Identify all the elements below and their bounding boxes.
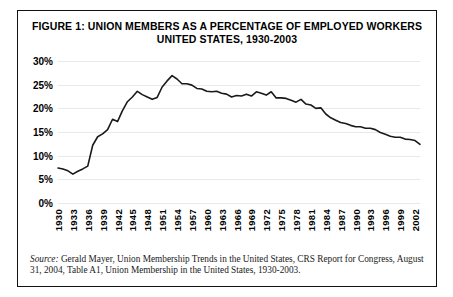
y-tick-label-20%: 20% xyxy=(19,103,53,114)
source-note: Source: Gerald Mayer, Union Membership T… xyxy=(30,254,424,277)
x-tick-label-1945: 1945 xyxy=(127,209,138,231)
x-tick-label-1960: 1960 xyxy=(202,209,213,231)
x-tick-label-1942: 1942 xyxy=(113,209,124,231)
x-tick-label-1963: 1963 xyxy=(217,209,228,231)
y-tick-label-5%: 5% xyxy=(19,174,53,185)
gridline-0% xyxy=(58,203,420,204)
x-tick-label-1996: 1996 xyxy=(380,209,391,231)
x-tick-label-1933: 1933 xyxy=(68,209,79,231)
x-tick-label-1957: 1957 xyxy=(187,209,198,231)
x-tick-label-1999: 1999 xyxy=(395,209,406,231)
x-tick-label-1972: 1972 xyxy=(261,209,272,231)
chart-area: 0%5%10%15%20%25%30% 19301933193619391942… xyxy=(18,55,438,240)
x-tick-label-1930: 1930 xyxy=(53,209,64,231)
x-tick-label-1951: 1951 xyxy=(157,209,168,231)
x-tick-label-1966: 1966 xyxy=(232,209,243,231)
y-tick-label-30%: 30% xyxy=(19,56,53,67)
figure-title-line-2: UNITED STATES, 1930-2003 xyxy=(18,33,436,46)
source-label: Source: xyxy=(30,254,59,264)
x-tick-label-1936: 1936 xyxy=(83,209,94,231)
x-tick-label-1981: 1981 xyxy=(306,209,317,231)
x-tick-label-1990: 1990 xyxy=(351,209,362,231)
x-tick-label-1993: 1993 xyxy=(365,209,376,231)
x-tick-label-1939: 1939 xyxy=(98,209,109,231)
plot-area: 0%5%10%15%20%25%30% xyxy=(58,61,420,203)
x-tick-label-1975: 1975 xyxy=(276,209,287,231)
x-tick-label-1954: 1954 xyxy=(172,209,183,231)
x-tick-label-1984: 1984 xyxy=(321,209,332,231)
y-tick-label-10%: 10% xyxy=(19,150,53,161)
figure-title-line-1: FIGURE 1: UNION MEMBERS AS A PERCENTAGE … xyxy=(18,20,436,33)
y-tick-label-0%: 0% xyxy=(19,198,53,209)
x-tick-label-1948: 1948 xyxy=(142,209,153,231)
x-tick-label-1978: 1978 xyxy=(291,209,302,231)
x-tick-label-2002: 2002 xyxy=(410,209,421,231)
x-tick-label-1969: 1969 xyxy=(246,209,257,231)
x-tick-label-1987: 1987 xyxy=(336,209,347,231)
union-membership-line-series xyxy=(58,61,420,203)
y-tick-label-25%: 25% xyxy=(19,79,53,90)
figure-container: FIGURE 1: UNION MEMBERS AS A PERCENTAGE … xyxy=(17,10,437,287)
figure-title: FIGURE 1: UNION MEMBERS AS A PERCENTAGE … xyxy=(18,20,436,46)
y-tick-label-15%: 15% xyxy=(19,127,53,138)
source-text: Gerald Mayer, Union Membership Trends in… xyxy=(30,254,424,276)
